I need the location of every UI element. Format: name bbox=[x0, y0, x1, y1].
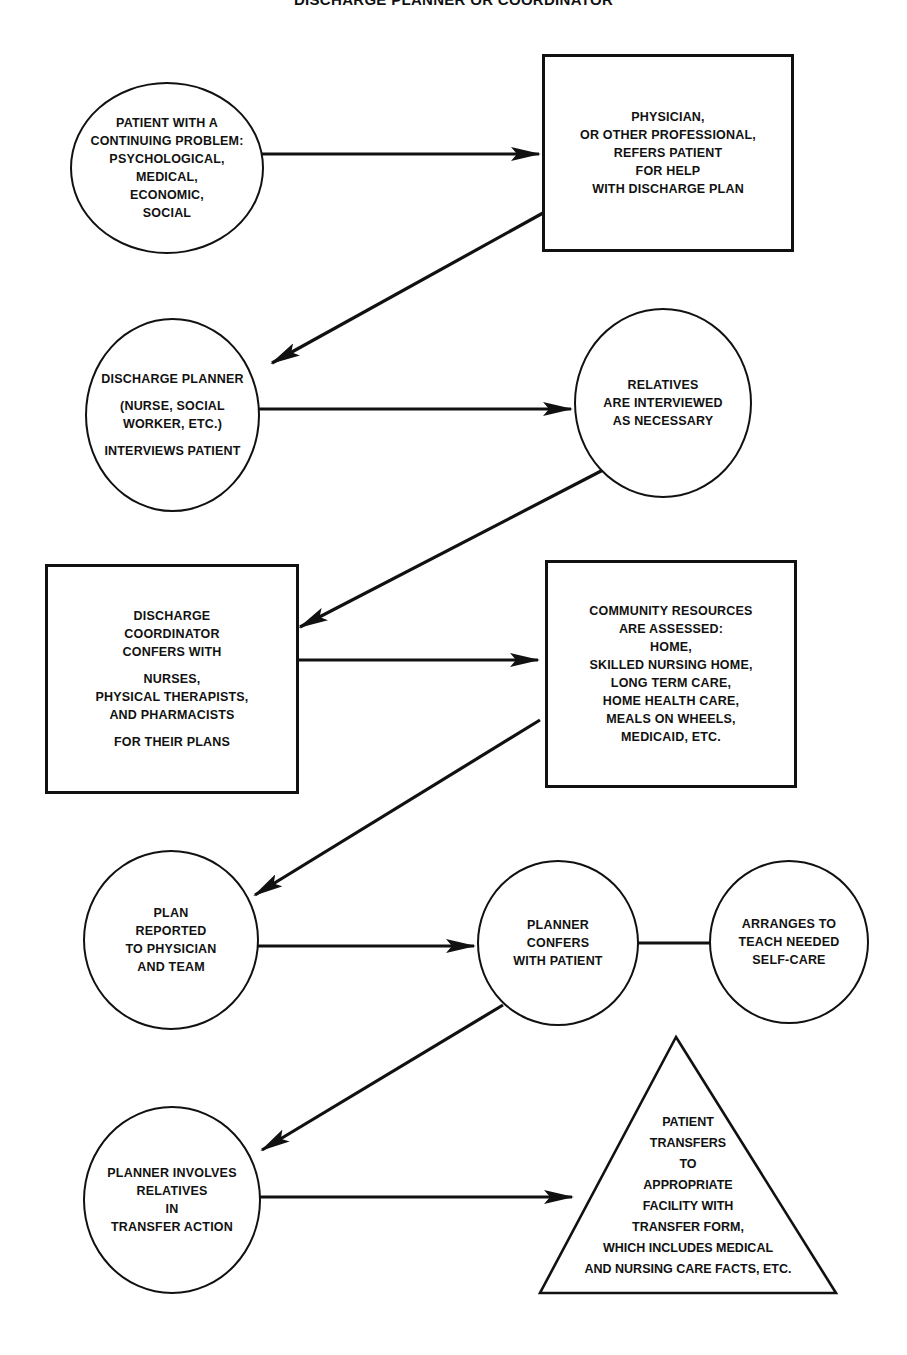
node-text: COORDINATOR bbox=[124, 625, 220, 643]
node-text: MEDICAL, bbox=[136, 168, 198, 186]
node-text: ARE ASSESSED: bbox=[619, 620, 723, 638]
node-text: ARRANGES TO bbox=[742, 915, 836, 933]
node-text: AND TEAM bbox=[137, 958, 205, 976]
node-text: TO bbox=[679, 1154, 696, 1175]
node-physician-refers: PHYSICIAN, OR OTHER PROFESSIONAL, REFERS… bbox=[542, 54, 794, 252]
node-text: CONTINUING PROBLEM: bbox=[90, 132, 243, 150]
node-text: SELF-CARE bbox=[752, 951, 825, 969]
node-planner-confers: PLANNER CONFERS WITH PATIENT bbox=[477, 860, 639, 1026]
node-plan-reported: PLAN REPORTED TO PHYSICIAN AND TEAM bbox=[83, 850, 259, 1030]
node-text: RELATIVES bbox=[136, 1182, 207, 1200]
node-patient-transfers: PATIENT TRANSFERS TO APPROPRIATE FACILIT… bbox=[540, 1112, 836, 1280]
node-planner-interviews: DISCHARGE PLANNER (NURSE, SOCIAL WORKER,… bbox=[85, 318, 260, 512]
node-community-resources: COMMUNITY RESOURCES ARE ASSESSED: HOME, … bbox=[545, 560, 797, 788]
node-text: WORKER, ETC.) bbox=[123, 415, 222, 433]
node-coordinator-confers: DISCHARGE COORDINATOR CONFERS WITH NURSE… bbox=[45, 564, 299, 794]
node-text: PATIENT bbox=[662, 1112, 714, 1133]
node-text: PLANNER INVOLVES bbox=[107, 1164, 236, 1182]
node-text: OR OTHER PROFESSIONAL, bbox=[580, 126, 756, 144]
node-relatives-interviewed: RELATIVES ARE INTERVIEWED AS NECESSARY bbox=[574, 308, 752, 498]
node-text: WITH DISCHARGE PLAN bbox=[592, 180, 744, 198]
node-text: NURSES, bbox=[144, 670, 201, 688]
arrow-physician-to-planner bbox=[272, 213, 543, 363]
node-text: AND NURSING CARE FACTS, ETC. bbox=[585, 1259, 792, 1280]
node-text: ECONOMIC, bbox=[130, 186, 204, 204]
node-text: TRANSFER FORM, bbox=[632, 1217, 744, 1238]
node-text: COMMUNITY RESOURCES bbox=[589, 602, 752, 620]
node-text: PLAN bbox=[154, 904, 189, 922]
node-text: (NURSE, SOCIAL bbox=[120, 397, 225, 415]
node-text: HOME HEALTH CARE, bbox=[603, 692, 740, 710]
node-text: TRANSFERS bbox=[650, 1133, 726, 1154]
node-text: TEACH NEEDED bbox=[738, 933, 839, 951]
node-text: DISCHARGE bbox=[134, 607, 211, 625]
node-text: WITH PATIENT bbox=[513, 952, 602, 970]
node-text: PHYSICAL THERAPISTS, bbox=[95, 688, 248, 706]
node-text: IN bbox=[166, 1200, 179, 1218]
node-text: CONFERS bbox=[527, 934, 590, 952]
node-text: TRANSFER ACTION bbox=[111, 1218, 233, 1236]
node-text: DISCHARGE PLANNER bbox=[101, 370, 243, 388]
node-text: RELATIVES bbox=[627, 376, 698, 394]
node-involves-relatives: PLANNER INVOLVES RELATIVES IN TRANSFER A… bbox=[83, 1106, 261, 1294]
node-text: PHYSICIAN, bbox=[631, 108, 705, 126]
arrow-confers-to-involves bbox=[262, 1005, 503, 1150]
node-text: INTERVIEWS PATIENT bbox=[104, 442, 240, 460]
node-text: PATIENT WITH A bbox=[116, 114, 218, 132]
node-text: WHICH INCLUDES MEDICAL bbox=[603, 1238, 773, 1259]
node-text: HOME, bbox=[650, 638, 692, 656]
node-text: AND PHARMACISTS bbox=[109, 706, 234, 724]
node-text: ARE INTERVIEWED bbox=[603, 394, 722, 412]
node-text: SOCIAL bbox=[143, 204, 191, 222]
node-text: FOR HELP bbox=[636, 162, 701, 180]
node-text: APPROPRIATE bbox=[643, 1175, 732, 1196]
node-text: MEALS ON WHEELS, bbox=[606, 710, 736, 728]
node-teach-selfcare: ARRANGES TO TEACH NEEDED SELF-CARE bbox=[709, 860, 869, 1024]
node-text: TO PHYSICIAN bbox=[125, 940, 216, 958]
node-text: FACILITY WITH bbox=[643, 1196, 734, 1217]
node-text: SKILLED NURSING HOME, bbox=[589, 656, 752, 674]
node-text: REPORTED bbox=[135, 922, 206, 940]
node-text: LONG TERM CARE, bbox=[611, 674, 731, 692]
node-text: CONFERS WITH bbox=[123, 643, 222, 661]
node-text: AS NECESSARY bbox=[613, 412, 714, 430]
node-text: MEDICAID, ETC. bbox=[621, 728, 721, 746]
node-text: FOR THEIR PLANS bbox=[114, 733, 230, 751]
node-text: PSYCHOLOGICAL, bbox=[109, 150, 224, 168]
node-text: PLANNER bbox=[527, 916, 589, 934]
node-text: REFERS PATIENT bbox=[614, 144, 723, 162]
node-patient-problem: PATIENT WITH A CONTINUING PROBLEM: PSYCH… bbox=[70, 82, 264, 254]
